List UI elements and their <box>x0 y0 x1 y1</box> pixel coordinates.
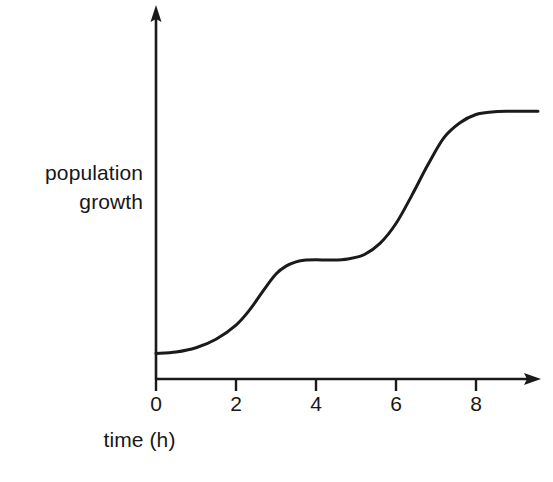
x-tick-label-0: 0 <box>136 392 176 416</box>
figure-root: population growth 0 2 4 6 8 time (h) <box>0 0 553 482</box>
x-tick-label-6: 6 <box>376 392 416 416</box>
y-axis-title: population growth <box>0 158 143 216</box>
growth-curve-line <box>156 111 538 353</box>
y-axis-title-line-2: growth <box>0 187 143 216</box>
y-axis-title-line-1: population <box>0 158 143 187</box>
x-axis-ticks <box>156 380 476 391</box>
x-tick-label-4: 4 <box>296 392 336 416</box>
x-axis-title: time (h) <box>0 428 553 452</box>
x-tick-label-2: 2 <box>216 392 256 416</box>
x-axis-title-text: time (h) <box>104 428 176 452</box>
x-tick-label-8: 8 <box>456 392 496 416</box>
